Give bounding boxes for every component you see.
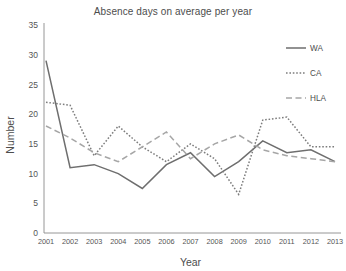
y-tick-label: 15	[29, 139, 39, 149]
x-tick-label: 2004	[110, 237, 126, 246]
x-tick-label: 2012	[303, 237, 319, 246]
x-tick-label: 2006	[158, 237, 174, 246]
x-tick-label: 2007	[182, 237, 198, 246]
x-tick-label: 2005	[134, 237, 150, 246]
y-tick-label: 25	[29, 80, 39, 90]
y-tick-label: 30	[29, 50, 39, 60]
x-tick-label: 2003	[86, 237, 102, 246]
x-axis-label: Year	[180, 256, 202, 268]
y-tick-label: 5	[33, 198, 38, 208]
series-lines	[46, 61, 335, 195]
series-line-ca	[46, 102, 335, 194]
chart-container: Absence days on average per year 0510152…	[0, 0, 346, 271]
x-tick-label: 2010	[255, 237, 271, 246]
x-tick-label: 2013	[327, 237, 343, 246]
chart-legend: WACAHLA	[286, 44, 326, 103]
series-line-wa	[46, 61, 335, 189]
x-tick-label: 2002	[62, 237, 78, 246]
x-tick-label: 2001	[38, 237, 54, 246]
legend-label-hla: HLA	[310, 94, 326, 103]
y-axis: 05101520253035	[29, 20, 44, 238]
y-axis-label: Number	[4, 116, 16, 154]
y-tick-label: 35	[29, 20, 39, 30]
legend-label-wa: WA	[310, 44, 323, 53]
x-axis: 2001200220032004200520062007200820092010…	[38, 233, 343, 246]
y-tick-label: 10	[29, 169, 39, 179]
x-tick-label: 2011	[279, 237, 295, 246]
legend-label-ca: CA	[310, 69, 322, 78]
chart-plot: 05101520253035 2001200220032004200520062…	[0, 0, 346, 271]
y-tick-label: 20	[29, 109, 39, 119]
x-tick-label: 2008	[206, 237, 222, 246]
x-tick-label: 2009	[231, 237, 247, 246]
